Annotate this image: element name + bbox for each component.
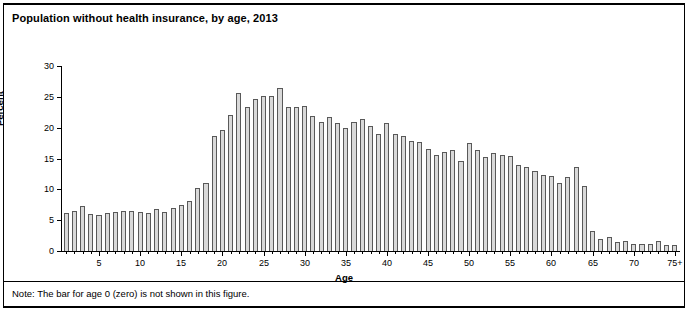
x-tick-minor — [354, 252, 355, 254]
x-tick-label: 45 — [423, 258, 433, 268]
bar — [426, 149, 431, 251]
bar — [105, 213, 110, 251]
bar — [434, 155, 439, 251]
x-tick-minor — [313, 252, 314, 254]
bar — [203, 183, 208, 251]
x-tick-minor — [148, 252, 149, 254]
x-tick-label: 5 — [96, 258, 101, 268]
bar — [253, 99, 258, 251]
y-tick-label: 25 — [28, 92, 54, 102]
x-tick-minor — [115, 252, 116, 254]
x-tick-minor — [453, 252, 454, 254]
bar — [245, 107, 250, 251]
bar — [417, 142, 422, 251]
x-tick-minor — [83, 252, 84, 254]
x-tick-minor — [247, 252, 248, 254]
y-tick-mark — [57, 66, 61, 67]
y-axis-label: Percent — [0, 91, 5, 126]
y-tick-label: 5 — [28, 215, 54, 225]
bar — [121, 211, 126, 251]
x-tick-minor — [560, 252, 561, 254]
x-tick-minor — [412, 252, 413, 254]
bar — [72, 211, 77, 251]
bar — [483, 157, 488, 251]
bar — [64, 213, 69, 251]
bar — [467, 143, 472, 251]
bar — [532, 171, 537, 251]
bar — [327, 117, 332, 251]
bar — [376, 134, 381, 251]
bar — [310, 116, 315, 251]
bar — [187, 201, 192, 251]
y-tick-mark — [57, 159, 61, 160]
x-tick-mark — [181, 252, 182, 256]
bar — [565, 177, 570, 251]
x-tick-minor — [255, 252, 256, 254]
bar — [138, 212, 143, 251]
x-tick-minor — [461, 252, 462, 254]
x-tick-mark — [675, 252, 676, 256]
x-tick-mark — [510, 252, 511, 256]
x-tick-mark — [551, 252, 552, 256]
x-tick-minor — [502, 252, 503, 254]
x-tick-minor — [650, 252, 651, 254]
x-tick-minor — [617, 252, 618, 254]
bar — [360, 119, 365, 251]
bar — [524, 167, 529, 251]
bar — [351, 122, 356, 251]
x-tick-label: 40 — [382, 258, 392, 268]
x-tick-mark — [305, 252, 306, 256]
x-tick-minor — [371, 252, 372, 254]
x-tick-mark — [428, 252, 429, 256]
x-tick-minor — [486, 252, 487, 254]
x-tick-minor — [74, 252, 75, 254]
x-tick-minor — [173, 252, 174, 254]
bar — [269, 96, 274, 251]
x-tick-mark — [346, 252, 347, 256]
x-tick-minor — [296, 252, 297, 254]
bar — [442, 152, 447, 251]
bar — [261, 96, 266, 251]
bar — [212, 136, 217, 251]
x-tick-minor — [519, 252, 520, 254]
bar — [541, 175, 546, 251]
chart-title: Population without health insurance, by … — [12, 12, 278, 24]
x-tick-label: 55 — [505, 258, 515, 268]
bar — [88, 214, 93, 251]
bar — [475, 150, 480, 251]
x-tick-minor — [477, 252, 478, 254]
x-tick-mark — [469, 252, 470, 256]
x-tick-label: 75+ — [667, 258, 682, 268]
bar — [458, 161, 463, 251]
x-tick-minor — [576, 252, 577, 254]
bar — [549, 176, 554, 251]
x-tick-minor — [601, 252, 602, 254]
y-tick-label: 30 — [28, 61, 54, 71]
x-tick-minor — [584, 252, 585, 254]
x-tick-minor — [494, 252, 495, 254]
bar — [286, 107, 291, 251]
bar — [228, 115, 233, 251]
bar — [179, 205, 184, 251]
x-tick-minor — [338, 252, 339, 254]
y-tick-mark — [57, 220, 61, 221]
bar — [409, 141, 414, 251]
x-axis-label: Age — [0, 272, 688, 283]
x-tick-minor — [445, 252, 446, 254]
bar — [384, 123, 389, 251]
y-tick-label: 10 — [28, 184, 54, 194]
x-tick-label: 25 — [259, 258, 269, 268]
bar — [80, 206, 85, 251]
x-tick-mark — [593, 252, 594, 256]
figure-left-rule — [3, 3, 4, 308]
x-tick-mark — [387, 252, 388, 256]
x-tick-minor — [124, 252, 125, 254]
figure-note: Note: The bar for age 0 (zero) is not sh… — [12, 288, 249, 299]
bar — [656, 241, 661, 251]
x-tick-mark — [222, 252, 223, 256]
x-tick-minor — [379, 252, 380, 254]
x-tick-minor — [321, 252, 322, 254]
bar — [607, 237, 612, 251]
bar — [639, 244, 644, 251]
chart-figure: Population without health insurance, by … — [0, 0, 688, 311]
